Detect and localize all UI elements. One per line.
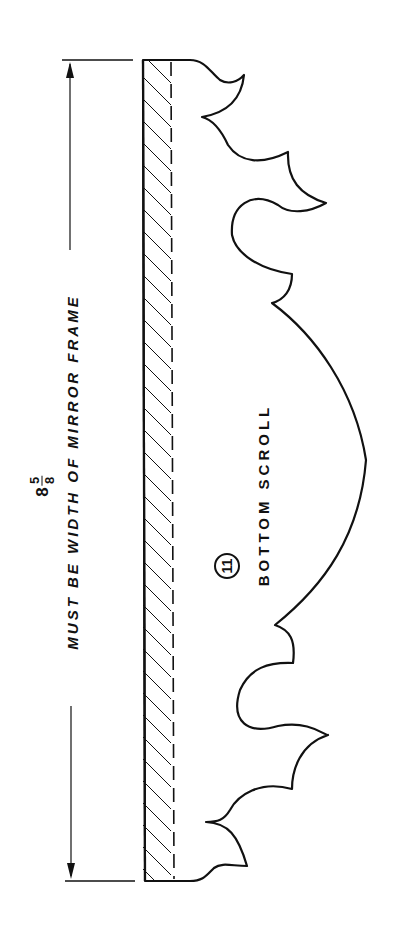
hatched-mounting-strip bbox=[143, 60, 171, 881]
part-number-text: 11 bbox=[219, 559, 235, 574]
arrowhead-up-icon bbox=[66, 62, 74, 78]
fraction-denominator: 8 bbox=[44, 477, 56, 484]
fraction-numerator: 5 bbox=[29, 477, 41, 484]
dimension-note: MUST BE WIDTH OF MIRROR FRAME bbox=[64, 294, 81, 649]
dimension-fraction: 5 8 bbox=[29, 475, 56, 485]
arrowhead-down-icon bbox=[67, 863, 75, 879]
bottom-scroll-drawing bbox=[0, 0, 395, 935]
part-name-label: BOTTOM SCROLL bbox=[255, 404, 272, 587]
dimension-whole: 8 bbox=[32, 487, 52, 496]
part-number-badge: 11 bbox=[214, 553, 240, 579]
dimension-value: 8 5 8 bbox=[29, 475, 56, 496]
dashed-hidden-line bbox=[171, 62, 174, 879]
